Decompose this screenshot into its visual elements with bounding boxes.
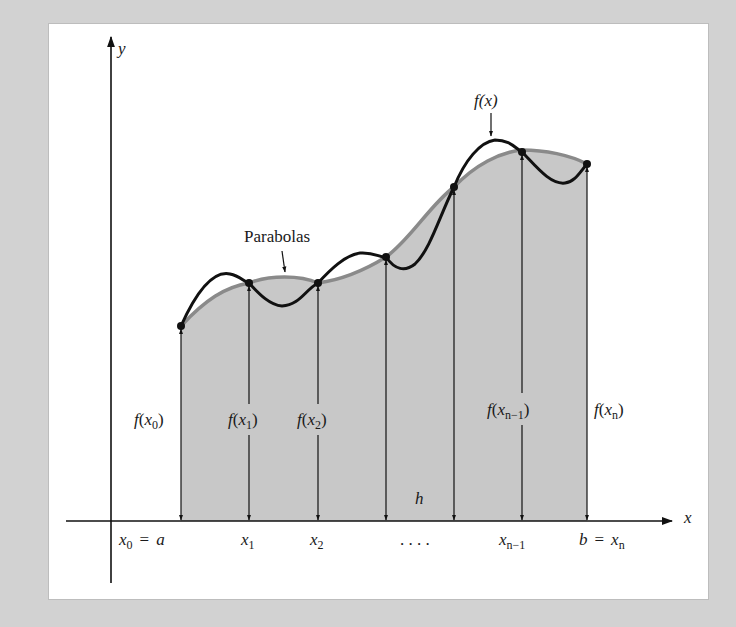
function-label: f(x) xyxy=(474,92,498,109)
tick-label-ellipsis: . . . . xyxy=(400,531,430,548)
parabolas-label: Parabolas xyxy=(244,228,310,245)
tick-label-x2: x2 xyxy=(310,531,324,551)
ordinate-label-xn-minus-1: f(xn−1) xyxy=(487,401,529,421)
tick-label-b-xn: b=xn xyxy=(579,531,625,551)
tick-label-xn-minus-1: xn−1 xyxy=(499,531,525,551)
interval-width-label: h xyxy=(415,490,424,507)
tick-label-x1: x1 xyxy=(241,531,255,551)
x-axis-label: x xyxy=(684,509,692,526)
shaded-area xyxy=(181,150,587,521)
y-axis-label: y xyxy=(118,40,126,57)
simpson-rule-diagram xyxy=(0,0,736,627)
ordinate-label-xn: f(xn) xyxy=(594,401,624,421)
ordinate-label-x0: f(x0) xyxy=(134,411,164,431)
tick-label-x0-a: x0=a xyxy=(119,531,165,551)
ordinate-label-x1: f(x1) xyxy=(228,411,258,431)
parabolas-pointer-arrow xyxy=(282,251,285,272)
ordinate-label-x2: f(x2) xyxy=(297,411,327,431)
